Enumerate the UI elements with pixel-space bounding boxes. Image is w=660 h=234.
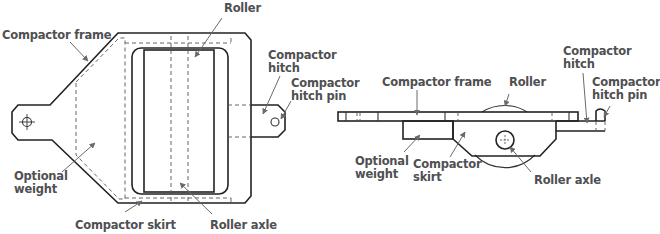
- side-label-compactor-skirt-line2: skirt: [413, 171, 481, 184]
- side-optional-weight: [403, 121, 453, 139]
- side-compactor-hitch: [556, 121, 605, 131]
- side-label-compactor-hitch: Compactor hitch: [563, 45, 631, 71]
- plan-label-compactor-hitch-pin: Compactor hitch pin: [291, 77, 359, 103]
- side-label-compactor-hitch-pin-line2: hitch pin: [592, 89, 660, 102]
- plan-label-compactor-frame: Compactor frame: [2, 29, 111, 42]
- plan-label-compactor-hitch: Compactor hitch: [268, 49, 336, 75]
- side-roller-axle-icon: [496, 131, 514, 149]
- plan-compactor-hitch-pin: [271, 118, 279, 126]
- plan-label-compactor-hitch-line2: hitch: [268, 62, 336, 75]
- side-label-compactor-hitch-pin: Compactor hitch pin: [592, 76, 660, 102]
- side-roller: [482, 105, 527, 112]
- plan-label-optional-weight: Optional weight: [14, 170, 68, 196]
- plan-label-compactor-skirt: Compactor skirt: [75, 219, 176, 232]
- side-label-optional-weight-line2: weight: [355, 168, 409, 181]
- plan-tab-pivot-icon: [19, 114, 35, 130]
- side-label-roller: Roller: [509, 76, 546, 89]
- side-compactor-hitch-pin: [596, 109, 605, 121]
- side-label-compactor-hitch-line2: hitch: [563, 58, 631, 71]
- side-label-optional-weight: Optional weight: [355, 155, 409, 181]
- side-compactor-skirt: [453, 121, 556, 156]
- plan-label-optional-weight-line2: weight: [14, 183, 68, 196]
- plan-label-roller-axle: Roller axle: [210, 219, 277, 232]
- plan-roller: [144, 50, 214, 192]
- side-label-compactor-skirt: Compactor skirt: [413, 158, 481, 184]
- plan-label-compactor-hitch-pin-line2: hitch pin: [291, 90, 359, 103]
- plan-compactor-skirt-dashed: [76, 38, 125, 199]
- side-label-roller-axle: Roller axle: [534, 174, 601, 187]
- side-label-compactor-frame: Compactor frame: [382, 76, 491, 89]
- plan-compactor-hitch: [251, 105, 285, 137]
- plan-label-roller: Roller: [224, 2, 261, 15]
